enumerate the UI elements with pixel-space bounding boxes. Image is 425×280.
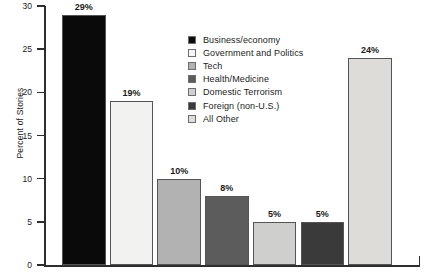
y-tick-label: 5: [0, 217, 32, 227]
y-tick-mark: [37, 264, 45, 266]
y-tick-label: 15: [0, 131, 32, 141]
bar-value-label: 24%: [361, 45, 379, 55]
legend-swatch-icon: [188, 88, 196, 96]
y-tick-mark: [37, 5, 45, 7]
y-tick-label: 10: [0, 174, 32, 184]
bar-chart: Percent of Stories 302520151050 29%19%10…: [0, 0, 425, 280]
y-axis-title: Percent of Stories: [15, 63, 25, 183]
bar: [301, 222, 345, 265]
y-tick-mark: [37, 178, 45, 180]
x-axis-end-tick: [419, 256, 421, 266]
bar-value-label: 10%: [170, 166, 188, 176]
bar: [348, 58, 392, 265]
bar-value-label: 29%: [75, 2, 93, 12]
bar-value-label: 8%: [220, 183, 233, 193]
y-tick-label: 25: [0, 44, 32, 54]
legend-item-label: Government and Politics: [203, 48, 303, 58]
legend-item: Foreign (non-U.S.): [188, 99, 303, 112]
legend-swatch-icon: [188, 36, 196, 44]
y-tick-mark: [37, 48, 45, 50]
legend-item-label: Foreign (non-U.S.): [203, 101, 279, 111]
legend-item: Health/Medicine: [188, 73, 303, 86]
legend-swatch-icon: [188, 75, 196, 83]
y-tick-label: 0: [0, 260, 32, 270]
bar-value-label: 5%: [268, 209, 281, 219]
legend-item-label: Business/economy: [203, 35, 280, 45]
bar-value-label: 19%: [122, 88, 140, 98]
bar: [157, 179, 201, 265]
legend-item-label: Health/Medicine: [203, 74, 269, 84]
chart-legend: Business/economyGovernment and PoliticsT…: [188, 33, 303, 125]
y-tick-mark: [37, 221, 45, 223]
legend-swatch-icon: [188, 115, 196, 123]
legend-swatch-icon: [188, 102, 196, 110]
legend-item-label: All Other: [203, 114, 239, 124]
y-tick-mark: [37, 135, 45, 137]
y-tick-label: 30: [0, 1, 32, 11]
legend-item: Tech: [188, 59, 303, 72]
bar: [205, 196, 249, 265]
legend-swatch-icon: [188, 49, 196, 57]
legend-item-label: Tech: [203, 61, 222, 71]
y-tick-mark: [37, 92, 45, 94]
legend-item: Domestic Terrorism: [188, 86, 303, 99]
bar: [253, 222, 297, 265]
y-tick-label: 20: [0, 87, 32, 97]
x-axis-line: [44, 265, 420, 267]
legend-item: Business/economy: [188, 33, 303, 46]
bar-value-label: 5%: [316, 209, 329, 219]
bar: [110, 101, 154, 265]
bar: [62, 15, 106, 265]
legend-item: All Other: [188, 112, 303, 125]
legend-item-label: Domestic Terrorism: [203, 87, 282, 97]
legend-item: Government and Politics: [188, 46, 303, 59]
legend-swatch-icon: [188, 62, 196, 70]
